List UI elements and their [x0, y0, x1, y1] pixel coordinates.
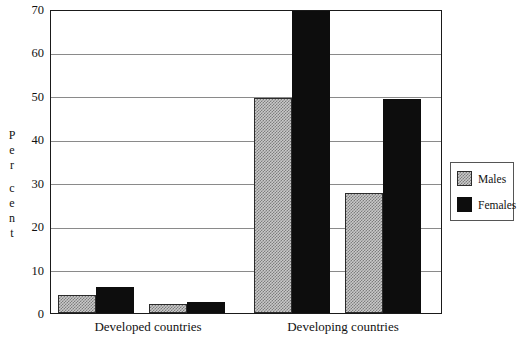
y-tick-label-70: 70 [16, 4, 44, 17]
y-tick-label-40: 40 [16, 134, 44, 147]
y-tick-label-20: 20 [16, 221, 44, 234]
legend: Males Females [450, 162, 514, 221]
legend-item-females: Females [457, 196, 508, 213]
plot-area [50, 10, 442, 314]
legend-label-females: Females [478, 199, 516, 211]
bar-males-developing-2 [345, 193, 383, 313]
bar-females-developed-1 [96, 287, 134, 313]
y-axis-title-letter: r [4, 158, 20, 173]
legend-swatch-females-icon [457, 197, 472, 212]
bar-males-developing-1 [254, 98, 292, 313]
legend-swatch-males-icon [457, 171, 472, 186]
bar-females-developing-2 [383, 99, 421, 313]
y-tick-label-0: 0 [16, 308, 44, 321]
bar-females-developed-2 [187, 302, 225, 313]
bar-females-developing-1 [292, 11, 330, 313]
category-label-developing: Developing countries [248, 319, 438, 335]
category-label-developed: Developed countries [58, 319, 238, 335]
y-axis-title-letter: e [4, 196, 20, 211]
gridline-50 [51, 97, 441, 98]
legend-item-males: Males [457, 170, 508, 187]
y-tick-label-30: 30 [16, 178, 44, 191]
legend-label-males: Males [478, 173, 506, 185]
bar-chart: P e r c e n t 70 60 50 40 30 20 10 0 Dev… [0, 0, 520, 343]
y-tick-label-10: 10 [16, 265, 44, 278]
bar-males-developed-1 [58, 295, 96, 313]
bar-males-developed-2 [149, 304, 187, 313]
gridline-60 [51, 54, 441, 55]
y-tick-label-60: 60 [16, 47, 44, 60]
y-tick-label-50: 50 [16, 91, 44, 104]
